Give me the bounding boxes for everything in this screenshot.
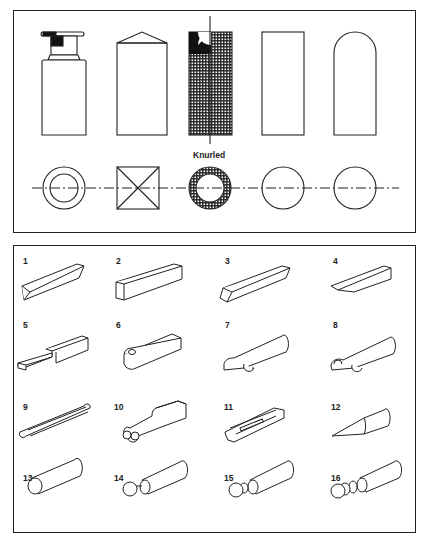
tool-label-3: 3 — [225, 256, 230, 266]
knurled-label: Knurled — [193, 150, 225, 160]
tool-label-14: 14 — [114, 473, 123, 483]
tool-10-icon — [123, 401, 186, 442]
tool-label-6: 6 — [116, 320, 121, 330]
flat-end-elevation — [262, 32, 304, 135]
tool-16-icon — [331, 461, 402, 498]
tool-label-4: 4 — [333, 256, 338, 266]
tool-label-2: 2 — [116, 256, 121, 266]
knurled-elevation — [189, 16, 232, 144]
tool-8-icon — [331, 337, 395, 372]
tool-15-icon — [229, 461, 294, 497]
stepped-collar-elevation — [41, 32, 86, 135]
tool-label-5: 5 — [23, 320, 28, 330]
tool-9-icon — [19, 404, 90, 438]
tool-label-12: 12 — [331, 402, 340, 412]
tool-12-icon — [332, 409, 390, 436]
tool-label-10: 10 — [114, 402, 123, 412]
tool-label-7: 7 — [225, 320, 230, 330]
tool-label-16: 16 — [331, 473, 340, 483]
tool-1-icon — [22, 264, 84, 300]
tool-label-9: 9 — [23, 402, 28, 412]
tool-11-icon — [225, 408, 284, 442]
tool-3-icon — [220, 266, 290, 302]
tool-label-15: 15 — [224, 473, 233, 483]
tool-shapes-drawing — [14, 246, 417, 534]
tool-13-icon — [28, 458, 82, 494]
tool-label-13: 13 — [23, 473, 32, 483]
square-pyramid-elevation — [117, 32, 167, 135]
tool-label-8: 8 — [333, 320, 338, 330]
tool-2-icon — [116, 264, 182, 300]
knurled-ring-plan — [189, 167, 231, 209]
tool-6-icon — [124, 334, 181, 369]
tool-4-icon — [331, 266, 391, 292]
round-end-elevation — [334, 32, 376, 135]
tool-label-11: 11 — [224, 402, 233, 412]
bottom-panel-tools: 1 2 3 4 5 6 7 8 9 10 11 12 13 14 15 16 — [13, 245, 416, 533]
top-shapes-drawing — [14, 11, 417, 234]
tool-14-icon — [123, 461, 188, 496]
tool-7-icon — [224, 335, 289, 371]
tool-5-icon — [18, 336, 88, 370]
tool-label-1: 1 — [23, 256, 28, 266]
top-panel-shapes: Knurled — [13, 10, 416, 233]
